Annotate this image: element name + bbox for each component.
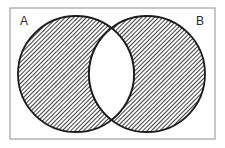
label-set-b: B xyxy=(196,14,204,28)
label-set-a: A xyxy=(20,14,28,28)
venn-diagram-svg: A B xyxy=(0,0,225,148)
venn-diagram: A B xyxy=(0,0,225,148)
